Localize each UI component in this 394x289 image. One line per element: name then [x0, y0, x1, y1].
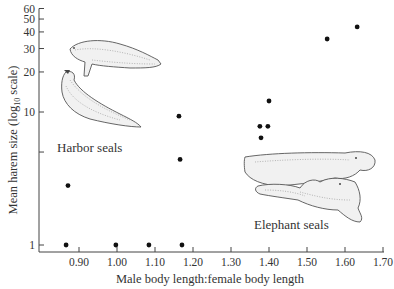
data-point	[265, 124, 270, 129]
y-axis-title-suffix: scale)	[6, 66, 20, 98]
y-tick-label: 60	[24, 3, 36, 15]
x-tick-label: 1.00	[107, 256, 127, 268]
x-axis-title: Male body length:female body length	[116, 272, 305, 286]
data-point	[64, 243, 69, 248]
data-point	[259, 135, 264, 140]
x-tick-label: 1.20	[183, 256, 203, 268]
y-tick-label: 10	[24, 106, 36, 118]
x-ticks: 0.901.001.101.201.301.401.501.601.70	[69, 247, 393, 268]
harbor-seals-label: Harbor seals	[57, 140, 122, 155]
y-tick-label: 40	[24, 26, 36, 38]
x-tick-label: 1.50	[297, 256, 317, 268]
data-point	[180, 243, 185, 248]
elephant-seals-label: Elephant seals	[254, 217, 329, 232]
data-point	[178, 157, 183, 162]
y-ticks: 1102030405060	[24, 3, 45, 251]
x-tick-label: 1.60	[335, 256, 355, 268]
data-point	[147, 243, 152, 248]
data-point	[177, 114, 182, 119]
y-axis-title: Mean harem size (log10 scale)	[6, 66, 22, 215]
x-tick-label: 1.40	[259, 256, 279, 268]
data-point	[66, 183, 71, 188]
chart: 0.901.001.101.201.301.401.501.601.70 110…	[0, 0, 394, 289]
data-point	[355, 25, 360, 30]
y-tick-label: 1	[29, 239, 35, 251]
y-tick-label: 20	[24, 66, 36, 78]
x-tick-label: 1.70	[373, 256, 393, 268]
harbor-seal-upper-icon	[70, 41, 161, 76]
harbor-seal-lower-icon	[62, 70, 141, 127]
elephant-seals-illustration	[244, 152, 375, 222]
data-point	[113, 243, 118, 248]
x-tick-label: 1.10	[145, 256, 165, 268]
harbor-seals-illustration	[62, 41, 161, 127]
y-tick-label: 30	[24, 43, 36, 55]
elephant-seal-lower-icon	[256, 178, 362, 222]
data-point	[257, 124, 262, 129]
x-tick-label: 1.30	[221, 256, 241, 268]
y-tick-label: 50	[24, 13, 36, 25]
x-tick-label: 0.90	[69, 256, 89, 268]
y-axis-title-main: Mean harem size (log	[6, 105, 20, 214]
data-point	[267, 99, 272, 104]
data-point	[325, 37, 330, 42]
y-axis-title-subscript: 10	[13, 98, 22, 106]
